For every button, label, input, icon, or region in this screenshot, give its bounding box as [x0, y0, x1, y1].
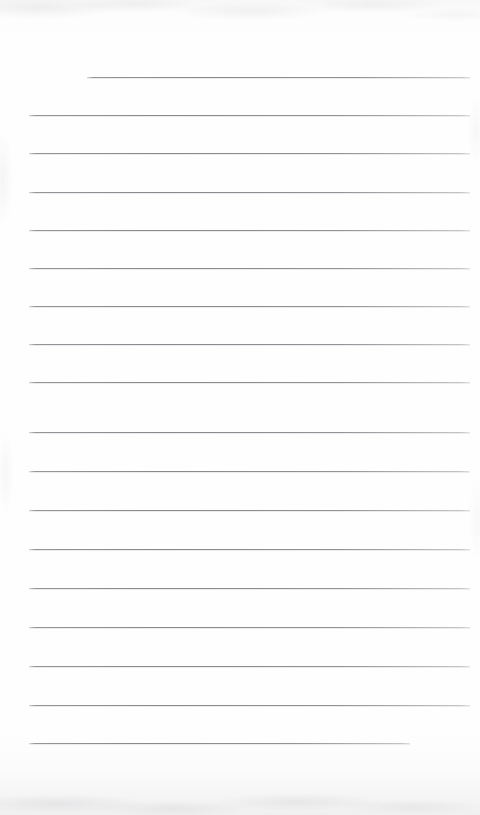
ruled-line: [29, 153, 470, 154]
ruled-lines-layer: [0, 0, 480, 815]
ruled-line: [29, 268, 470, 269]
scanned-page: [0, 0, 480, 815]
ruled-line: [29, 432, 470, 433]
ruled-line: [29, 471, 470, 472]
ruled-line: [29, 705, 470, 706]
ruled-line: [29, 510, 470, 511]
ruled-line: [29, 230, 470, 231]
ruled-line: [29, 115, 470, 116]
ruled-line: [29, 382, 470, 383]
ruled-line: [87, 77, 470, 78]
ruled-line: [29, 306, 470, 307]
ruled-line: [29, 192, 470, 193]
ruled-line: [29, 666, 470, 667]
ruled-line: [29, 588, 470, 589]
ruled-line: [29, 743, 410, 744]
ruled-line: [29, 549, 470, 550]
ruled-line: [29, 627, 470, 628]
ruled-line: [29, 344, 470, 345]
